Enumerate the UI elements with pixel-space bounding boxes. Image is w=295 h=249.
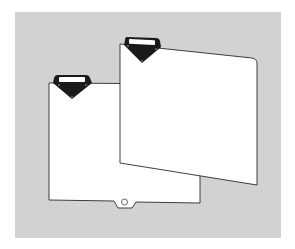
divider-sheets-drawing xyxy=(0,0,295,249)
illustration xyxy=(0,0,295,249)
front-divider-sheet xyxy=(120,44,257,185)
tab-label-window xyxy=(59,77,85,82)
hanging-hole-icon xyxy=(122,199,128,205)
